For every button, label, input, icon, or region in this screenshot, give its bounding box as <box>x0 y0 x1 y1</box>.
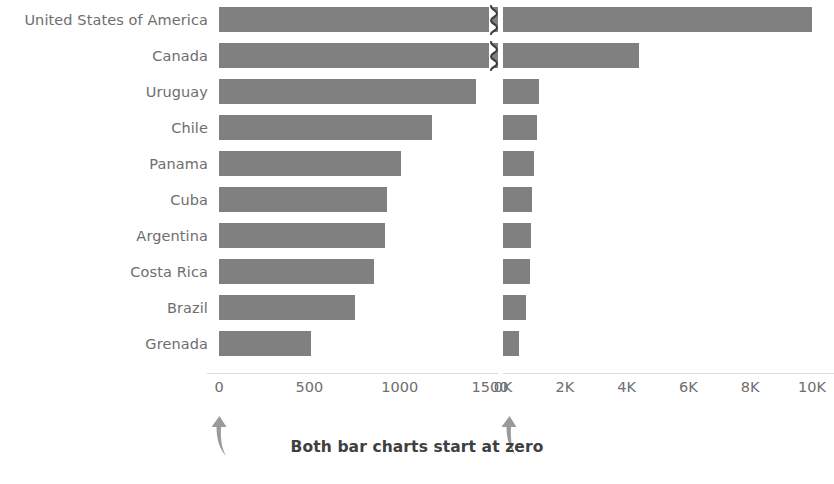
bar-right-panel[interactable] <box>503 7 812 32</box>
chart-row: Grenada <box>0 326 834 362</box>
caption-text: Both bar charts start at zero <box>291 432 544 462</box>
category-label: Uruguay <box>0 74 208 110</box>
category-label: Argentina <box>0 218 208 254</box>
chart-row: Panama <box>0 146 834 182</box>
x-axis-tick-label: 1000 <box>370 379 430 395</box>
right-panel-axis-line <box>503 373 834 374</box>
category-label: United States of America <box>0 2 208 38</box>
bar-right-panel[interactable] <box>503 187 532 212</box>
chart-row: Brazil <box>0 290 834 326</box>
chart-row: United States of America <box>0 2 834 38</box>
bar-left-panel[interactable] <box>219 115 432 140</box>
chart-row: Argentina <box>0 218 834 254</box>
panel-separator <box>498 0 503 373</box>
caption: Both bar charts start at zero <box>0 432 834 462</box>
x-axis-tick-label: 8K <box>720 379 780 395</box>
left-panel-axis-line <box>207 373 498 374</box>
x-axis-tick-label: 6K <box>658 379 718 395</box>
bar-right-panel[interactable] <box>503 115 537 140</box>
bar-left-panel[interactable] <box>219 331 311 356</box>
bar-left-panel[interactable] <box>219 259 374 284</box>
bar-right-panel[interactable] <box>503 223 531 248</box>
category-label: Cuba <box>0 182 208 218</box>
bar-right-panel[interactable] <box>503 43 639 68</box>
chart-row: Chile <box>0 110 834 146</box>
dual-bar-chart-figure: United States of AmericaCanadaUruguayChi… <box>0 0 834 484</box>
category-label: Chile <box>0 110 208 146</box>
category-label: Grenada <box>0 326 208 362</box>
bar-right-panel[interactable] <box>503 79 539 104</box>
category-label: Canada <box>0 38 208 74</box>
bar-left-panel[interactable] <box>219 223 385 248</box>
bar-right-panel[interactable] <box>503 295 526 320</box>
x-axis-tick-label: 500 <box>279 379 339 395</box>
x-axis-tick-label: 0 <box>189 379 249 395</box>
bar-left-panel[interactable] <box>219 7 498 32</box>
chart-row: Cuba <box>0 182 834 218</box>
x-axis-tick-label: 0K <box>473 379 533 395</box>
x-axis-tick-label: 10K <box>782 379 834 395</box>
bar-left-panel[interactable] <box>219 43 498 68</box>
bar-left-panel[interactable] <box>219 295 355 320</box>
chart-row: Uruguay <box>0 74 834 110</box>
x-axis-tick-label: 4K <box>597 379 657 395</box>
category-label: Costa Rica <box>0 254 208 290</box>
bar-left-panel[interactable] <box>219 79 476 104</box>
category-label: Panama <box>0 146 208 182</box>
bar-left-panel[interactable] <box>219 151 401 176</box>
chart-row: Canada <box>0 38 834 74</box>
bar-right-panel[interactable] <box>503 259 530 284</box>
bar-right-panel[interactable] <box>503 331 519 356</box>
category-label: Brazil <box>0 290 208 326</box>
x-axis-tick-label: 2K <box>535 379 595 395</box>
bar-right-panel[interactable] <box>503 151 534 176</box>
chart-row: Costa Rica <box>0 254 834 290</box>
bar-left-panel[interactable] <box>219 187 387 212</box>
